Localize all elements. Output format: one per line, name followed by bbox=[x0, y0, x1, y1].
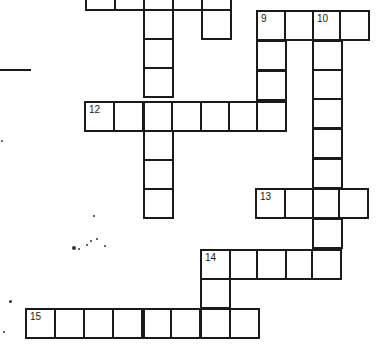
grid-cell[interactable] bbox=[200, 278, 231, 309]
clue-number: 15 bbox=[30, 312, 41, 322]
clue-number: 10 bbox=[317, 14, 328, 24]
grid-cell[interactable] bbox=[112, 308, 143, 339]
grid-cell[interactable] bbox=[312, 69, 343, 100]
grid-cell[interactable] bbox=[113, 101, 144, 132]
grid-cell[interactable] bbox=[229, 308, 260, 339]
grid-cell[interactable] bbox=[143, 38, 174, 69]
ink-speck bbox=[1, 140, 3, 142]
ink-speck bbox=[72, 246, 76, 250]
grid-cell[interactable] bbox=[114, 0, 145, 11]
grid-cell[interactable] bbox=[85, 0, 116, 11]
ink-speck bbox=[96, 238, 98, 240]
grid-cell[interactable] bbox=[312, 40, 343, 71]
grid-cell[interactable] bbox=[143, 101, 174, 132]
clue-number: 9 bbox=[261, 14, 267, 24]
grid-cell[interactable] bbox=[312, 98, 343, 129]
grid-cell[interactable] bbox=[228, 101, 259, 132]
ink-speck bbox=[104, 245, 106, 247]
clue-cell-14[interactable]: 14 bbox=[200, 249, 231, 280]
clue-cell-13[interactable]: 13 bbox=[255, 188, 286, 219]
ink-speck bbox=[78, 248, 80, 250]
grid-cell[interactable] bbox=[143, 130, 174, 161]
grid-cell[interactable] bbox=[171, 101, 202, 132]
clue-cell-15[interactable]: 15 bbox=[25, 308, 56, 339]
ink-speck bbox=[86, 244, 88, 246]
grid-cell[interactable] bbox=[284, 188, 315, 219]
grid-cell[interactable] bbox=[172, 0, 203, 11]
clue-cell-9[interactable]: 9 bbox=[256, 10, 287, 41]
grid-cell[interactable] bbox=[312, 218, 343, 249]
grid-cell[interactable] bbox=[143, 67, 174, 98]
clue-number: 12 bbox=[89, 105, 100, 115]
grid-cell[interactable] bbox=[338, 188, 369, 219]
grid-cell[interactable] bbox=[200, 101, 231, 132]
grid-cell[interactable] bbox=[143, 9, 174, 40]
grid-cell[interactable] bbox=[170, 308, 201, 339]
grid-cell[interactable] bbox=[83, 308, 114, 339]
grid-cell[interactable] bbox=[201, 9, 232, 40]
grid-cell[interactable] bbox=[256, 40, 287, 71]
clue-cell-12[interactable]: 12 bbox=[84, 101, 115, 132]
ink-speck bbox=[93, 215, 95, 217]
grid-cell[interactable] bbox=[312, 158, 343, 189]
grid-cell[interactable] bbox=[311, 249, 342, 280]
ink-speck bbox=[9, 300, 12, 303]
grid-cell[interactable] bbox=[143, 188, 174, 219]
grid-cell[interactable] bbox=[143, 159, 174, 190]
grid-cell[interactable] bbox=[256, 249, 287, 280]
clue-number: 14 bbox=[205, 253, 216, 263]
grid-cell[interactable] bbox=[312, 128, 343, 159]
grid-cell[interactable] bbox=[284, 10, 315, 41]
grid-cell[interactable] bbox=[256, 101, 287, 132]
clue-number: 13 bbox=[260, 192, 271, 202]
grid-cell[interactable] bbox=[200, 308, 231, 339]
ink-speck bbox=[3, 331, 5, 333]
left-rule-line bbox=[0, 69, 31, 71]
grid-cell[interactable] bbox=[54, 308, 85, 339]
ink-speck bbox=[90, 240, 92, 242]
grid-cell[interactable] bbox=[339, 10, 370, 41]
grid-cell[interactable] bbox=[256, 70, 287, 101]
